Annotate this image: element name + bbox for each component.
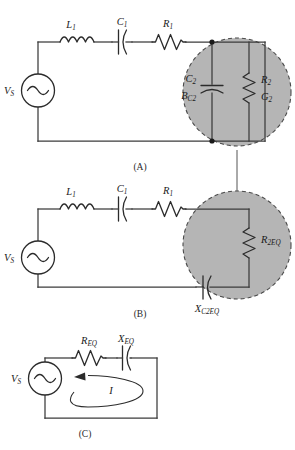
panel-b-inductor-label: L1 <box>65 186 75 199</box>
panel-c-xeq-label: XEQ <box>117 333 135 346</box>
panel-b-source-label: VS <box>4 252 14 265</box>
panel-b-inductor-symbol <box>60 204 94 209</box>
panel-a-node-dot-top <box>209 39 214 44</box>
circuit-figure: VS L1 C1 R1 C2 BC2 R2 G2 (A) <box>0 0 295 450</box>
panel-a-resistor-label: R1 <box>162 18 173 31</box>
panel-c-caption: (C) <box>79 429 92 440</box>
panel-b-xc2eq-label: XC2EQ <box>194 303 220 316</box>
panel-b: VS L1 C1 R1 R2EQ XC2EQ (B) <box>4 183 291 320</box>
panel-c-req-symbol <box>72 351 106 366</box>
panel-a-node-dot-bottom <box>209 138 214 143</box>
panel-c-source-label: VS <box>11 373 21 386</box>
circuit-diagram-canvas: VS L1 C1 R1 C2 BC2 R2 G2 (A) <box>0 0 295 450</box>
panel-a-inductor-label: L1 <box>65 19 75 32</box>
panel-a-source-label: VS <box>4 85 14 98</box>
panel-a-capacitor-label: C1 <box>117 16 128 29</box>
panel-c-loop-current-label: I <box>108 385 113 396</box>
panel-b-caption: (B) <box>134 309 147 320</box>
panel-b-capacitor-label: C1 <box>117 183 128 196</box>
panel-b-resistor-label: R1 <box>162 185 173 198</box>
panel-b-resistor-symbol <box>152 202 186 217</box>
panel-a-highlight-blob <box>183 38 291 146</box>
panel-a-caption: (A) <box>133 162 146 173</box>
panel-c-req-label: REQ <box>80 335 98 348</box>
panel-a: VS L1 C1 R1 C2 BC2 R2 G2 (A) <box>4 16 291 173</box>
panel-c-loop-current-arc <box>70 376 143 408</box>
panel-a-inductor-symbol <box>60 37 94 42</box>
panel-a-resistor-symbol <box>152 35 186 50</box>
panel-c-loop-current-arrowhead <box>74 373 86 381</box>
panel-c: VS REQ XEQ I (C) <box>11 333 157 440</box>
